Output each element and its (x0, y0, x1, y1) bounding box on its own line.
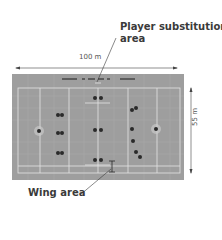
player-dot (93, 158, 97, 162)
player-dot (131, 139, 135, 143)
substitution-label-line1: Player substitution (120, 21, 222, 33)
player-dot (130, 127, 134, 131)
player-dot (99, 158, 103, 162)
player-dot (99, 96, 103, 100)
length-dimension-arrow (15, 67, 178, 70)
player-dot (60, 113, 64, 117)
player-dot (93, 96, 97, 100)
substitution-label-line2: area (120, 33, 222, 45)
player-dot (134, 106, 138, 110)
player-dot (37, 129, 41, 133)
wing-area-label: Wing area (28, 187, 85, 199)
player-dot (138, 155, 142, 159)
length-label: 100 m (79, 53, 101, 61)
player-dot (99, 128, 103, 132)
player-dot (56, 113, 60, 117)
width-dimension-arrow (190, 87, 193, 174)
width-label: 55 m (191, 108, 199, 126)
substitution-area-label: Player substitution area (120, 21, 222, 45)
player-dot (130, 108, 134, 112)
player-dot (134, 150, 138, 154)
player-dot (154, 127, 158, 131)
player-dot (93, 128, 97, 132)
player-dot (60, 151, 64, 155)
player-dot (56, 151, 60, 155)
player-dot (56, 131, 60, 135)
player-dot (60, 131, 64, 135)
